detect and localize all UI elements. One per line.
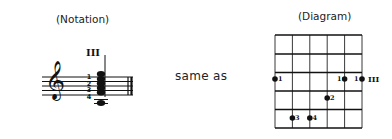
dot-string1-fret3 bbox=[272, 76, 278, 82]
finger-label: 1 bbox=[337, 75, 342, 83]
finger-label: 2 bbox=[330, 94, 335, 102]
fretboard-diagram bbox=[0, 0, 392, 139]
finger-label: 1 bbox=[278, 75, 283, 83]
dot-string5-fret3 bbox=[342, 76, 348, 82]
diagram-position-marker: III bbox=[368, 74, 379, 84]
finger-label: 1 bbox=[354, 75, 359, 83]
dot-string6-fret3 bbox=[359, 76, 365, 82]
finger-label: 3 bbox=[295, 114, 300, 122]
finger-label: 4 bbox=[313, 114, 318, 122]
